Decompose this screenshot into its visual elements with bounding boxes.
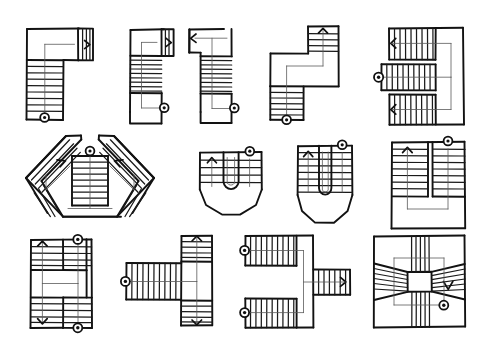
stair-typology-sheet: .o { fill:none; stroke:#121212; stroke-w… <box>0 0 489 356</box>
stair-typology-drawing: .o { fill:none; stroke:#121212; stroke-w… <box>0 0 489 356</box>
